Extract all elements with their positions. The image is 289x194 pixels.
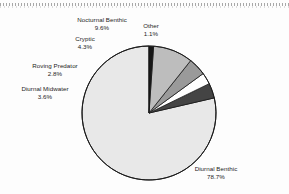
pie-label-diurnal-midwater-value: 3.6% [10,93,80,101]
pie-label-roving-predator: Roving Predator 2.8% [22,62,88,78]
pie-label-roving-predator-name: Roving Predator [32,62,77,69]
pie-label-nocturnal-benthic: Nocturnal Benthic 9.6% [72,16,132,32]
pie-label-roving-predator-value: 2.8% [22,70,88,78]
pie-label-other-value: 1.1% [134,30,168,38]
pie-label-diurnal-benthic-value: 78.7% [182,173,250,181]
pie-label-nocturnal-benthic-name: Nocturnal Benthic [77,16,127,23]
pie-label-cryptic-name: Cryptic [75,35,95,42]
pie-label-diurnal-benthic: Diurnal Benthic 78.7% [182,165,250,181]
pie-label-diurnal-benthic-name: Diurnal Benthic [195,165,238,172]
pie-label-nocturnal-benthic-value: 9.6% [72,24,132,32]
chart-page: Nocturnal Benthic 9.6% Other 1.1% Crypti… [0,0,289,194]
pie-label-cryptic: Cryptic 4.3% [64,35,106,51]
pie-label-diurnal-midwater-name: Diurnal Midwater [21,85,68,92]
pie-label-diurnal-midwater: Diurnal Midwater 3.6% [10,85,80,101]
pie-label-cryptic-value: 4.3% [64,43,106,51]
pie-label-other-name: Other [143,22,159,29]
pie-label-other: Other 1.1% [134,22,168,38]
